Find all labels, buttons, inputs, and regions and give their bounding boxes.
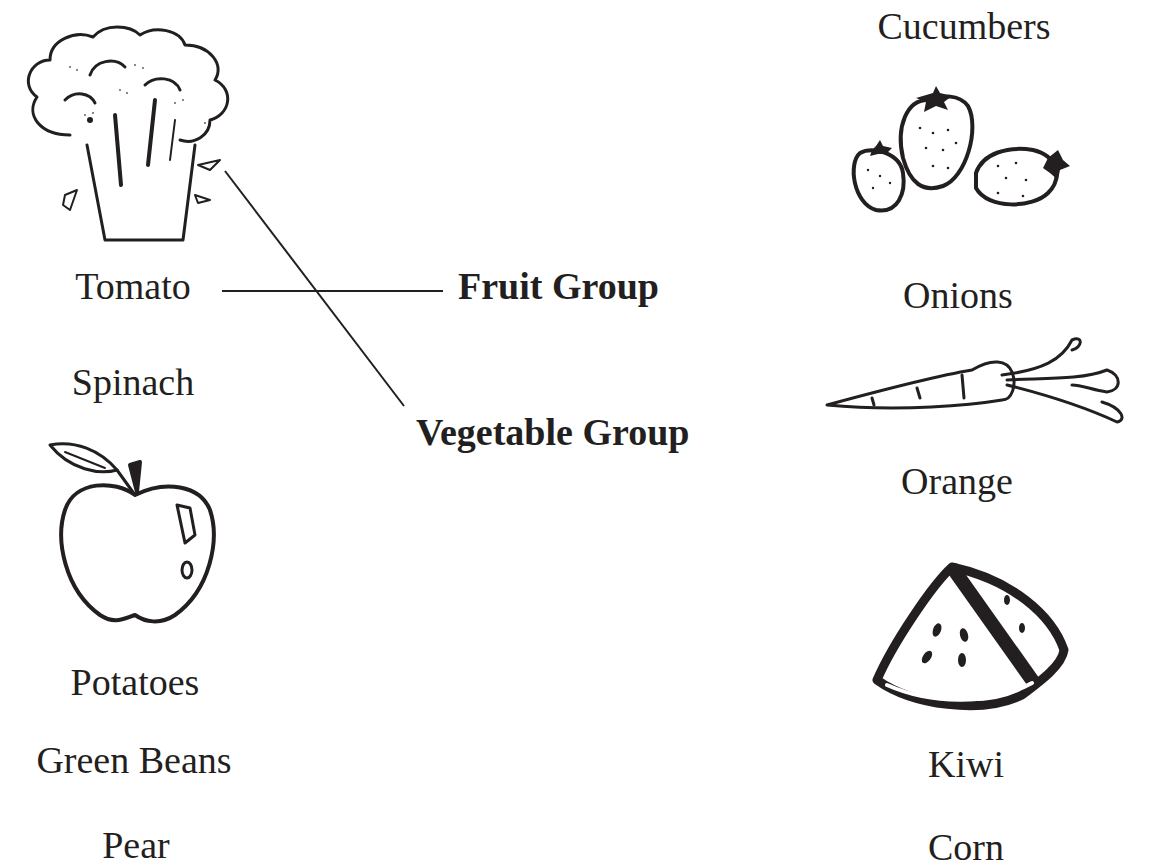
label-cucumbers[interactable]: Cucumbers [877,7,1050,45]
label-pear[interactable]: Pear [102,826,170,864]
label-tomato[interactable]: Tomato [75,267,191,305]
label-spinach[interactable]: Spinach [72,363,194,401]
broccoli-icon[interactable] [15,15,245,245]
vegetable-group-label[interactable]: Vegetable Group [416,413,689,451]
label-kiwi[interactable]: Kiwi [928,745,1004,783]
watermelon-icon[interactable] [872,555,1067,715]
carrot-icon[interactable] [822,330,1132,425]
label-potatoes[interactable]: Potatoes [71,663,200,701]
line-broccoli-to-vegetable-group [225,171,404,406]
strawberries-icon[interactable] [848,88,1073,218]
fruit-group-label[interactable]: Fruit Group [458,267,659,305]
apple-icon[interactable] [45,440,225,630]
label-onions[interactable]: Onions [903,276,1013,314]
label-green-beans[interactable]: Green Beans [36,741,231,779]
label-corn[interactable]: Corn [928,828,1004,866]
label-orange[interactable]: Orange [901,462,1013,500]
